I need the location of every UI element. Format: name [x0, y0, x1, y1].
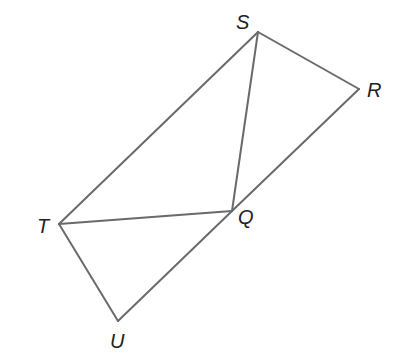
segments	[59, 32, 359, 321]
segment-QU	[118, 211, 232, 321]
segment-RQ	[232, 89, 359, 211]
segment-TU	[59, 224, 118, 321]
vertex-label-S: S	[236, 11, 250, 33]
segment-SR	[258, 32, 359, 89]
vertex-label-T: T	[37, 215, 51, 237]
geometry-diagram: S R Q T U	[0, 0, 403, 362]
vertex-label-R: R	[367, 79, 381, 101]
segment-SQ	[232, 32, 258, 211]
vertex-labels: S R Q T U	[37, 11, 381, 352]
vertex-label-Q: Q	[238, 206, 254, 228]
vertex-label-U: U	[110, 330, 125, 352]
segment-ST	[59, 32, 258, 224]
segment-TQ	[59, 211, 232, 224]
